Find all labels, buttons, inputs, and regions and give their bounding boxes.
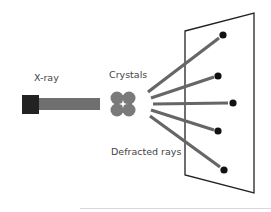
xray-label: X-ray [34,72,59,83]
crystal-icon [111,92,136,117]
crystals-label: Crystals [109,69,147,80]
xray-source-box [22,95,39,114]
ray-3 [153,103,228,104]
spot-4 [214,127,221,134]
diffracted-rays-label: Defracted rays [111,146,181,157]
xray-beam [39,98,100,110]
spot-3 [229,99,236,106]
ray-4 [151,110,214,130]
spot-5 [220,166,227,173]
spot-1 [219,31,226,38]
bottom-divider [80,208,271,209]
diffraction-diagram [0,0,271,212]
spot-2 [214,72,221,79]
ray-2 [151,77,214,98]
ray-1 [148,38,219,92]
